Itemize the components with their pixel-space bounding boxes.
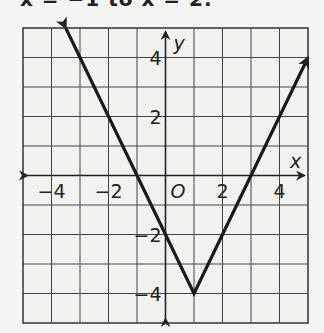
x-tick-label: 4 <box>273 180 285 202</box>
y-tick-label: 4 <box>149 47 161 69</box>
coordinate-plane: yxO−4−22442−2−4 <box>0 0 324 333</box>
x-tick-label: 2 <box>216 180 228 202</box>
y-axis-label: y <box>173 32 186 54</box>
y-tick-label: 2 <box>149 106 161 128</box>
y-tick-label: −4 <box>133 283 161 305</box>
origin-label: O <box>171 180 186 202</box>
y-tick-label: −2 <box>133 224 161 246</box>
x-tick-label: −2 <box>94 180 122 202</box>
x-axis-label: x <box>289 150 302 172</box>
x-tick-label: −4 <box>37 180 65 202</box>
